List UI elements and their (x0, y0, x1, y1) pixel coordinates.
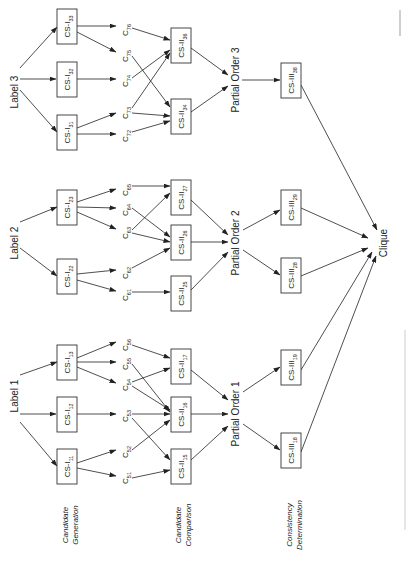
cs3-node: CS-III29 (281, 190, 301, 225)
candidate: C51 (121, 472, 132, 484)
stage-candidate-generation: Candidate Generation (61, 505, 80, 545)
cs2-node: CS-II27 (171, 180, 191, 215)
partial-order-3: Partial Order 3 (230, 47, 241, 112)
candidate: C54 (121, 379, 132, 391)
candidate: C76 (121, 24, 132, 36)
svg-text:Consistency: Consistency (285, 502, 294, 547)
edges-partial-order-to-cs3 (242, 80, 280, 450)
cs1-node: CS-I13 (57, 345, 77, 380)
candidate: C61 (121, 289, 132, 301)
diagram-canvas: Label 3 Label 2 Label 1 CS-I33 CS-I32 CS… (0, 0, 412, 563)
cs3-node: CS-III19 (281, 350, 301, 385)
cs1-node: CS-I23 (57, 190, 77, 225)
candidate: C74 (121, 75, 132, 87)
candidate: C73 (121, 107, 132, 119)
faint-caption-mark (404, 330, 406, 530)
candidate: C52 (121, 446, 132, 458)
cs2-node: CS-II26 (171, 225, 191, 260)
stage-consistency-determination: Consistency Determination (285, 500, 304, 550)
cs3-node: CS-III18 (281, 433, 301, 468)
candidate: C65 (121, 184, 132, 196)
candidate: C72 (121, 130, 132, 142)
edges-cs3-to-clique (301, 85, 377, 452)
candidate: C62 (121, 267, 132, 279)
faint-id-mark (399, 10, 401, 36)
cs2-node: CS-II16 (171, 397, 191, 432)
cs2-node: CS-II36 (171, 28, 191, 63)
stage-candidate-comparison: Candidate Comparison (174, 503, 193, 547)
cs2-node: CS-II17 (171, 349, 191, 384)
svg-text:Comparison: Comparison (184, 503, 193, 547)
candidate: C63 (121, 227, 132, 239)
svg-text:Determination: Determination (295, 500, 304, 550)
cs1-node: CS-I31 (57, 115, 77, 150)
cs2-node: CS-II34 (171, 99, 191, 134)
svg-text:Generation: Generation (71, 505, 80, 545)
clique-node: Clique (378, 228, 389, 257)
cs1-node: CS-I33 (57, 9, 77, 44)
cs2-node: CS-II15 (171, 449, 191, 484)
partial-order-2: Partial Order 2 (230, 210, 241, 275)
candidate: C55 (121, 358, 132, 370)
cs1-node: CS-I22 (57, 259, 77, 294)
svg-text:Candidate: Candidate (174, 506, 183, 543)
candidate: C64 (121, 204, 132, 216)
cs1-node: CS-I32 (57, 62, 77, 97)
cs2-node: CS-II25 (171, 276, 191, 311)
svg-text:Candidate: Candidate (61, 506, 70, 543)
label-3: Label 3 (9, 75, 20, 108)
edges-cs1-to-candidates (77, 26, 116, 476)
edges-cs2-to-partial-order (191, 48, 228, 460)
candidate: C75 (121, 50, 132, 62)
label-1: Label 1 (9, 379, 20, 412)
cs3-node: CS-III28 (281, 258, 301, 293)
edges-candidates-to-cs2 (132, 28, 170, 478)
candidate-labels: C76 C75 C74 C73 C72 C65 C64 C63 C62 C61 … (121, 24, 132, 484)
candidate: C53 (121, 410, 132, 422)
partial-order-1: Partial Order 1 (230, 381, 241, 446)
edges-label-to-cs1 (20, 27, 57, 466)
candidate: C56 (121, 339, 132, 351)
cs3-node: CS-III38 (281, 63, 301, 98)
cs1-node: CS-I11 (57, 449, 77, 484)
label-2: Label 2 (9, 226, 20, 259)
cs1-node: CS-I12 (57, 397, 77, 432)
